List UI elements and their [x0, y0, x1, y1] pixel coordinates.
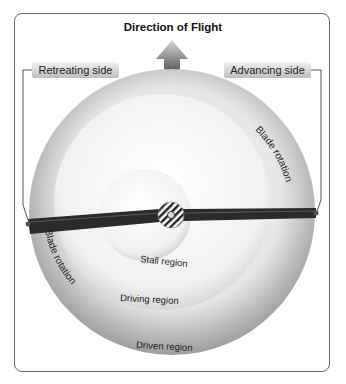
diagram-title: Direction of Flight [0, 21, 346, 33]
up-arrow-icon [156, 40, 188, 73]
rotor-disc-diagram: Blade rotation Blade rotation Stall regi… [0, 0, 346, 384]
hub-icon [158, 202, 184, 228]
advancing-side-label: Advancing side [224, 62, 311, 78]
retreating-side-label: Retreating side [32, 62, 119, 78]
